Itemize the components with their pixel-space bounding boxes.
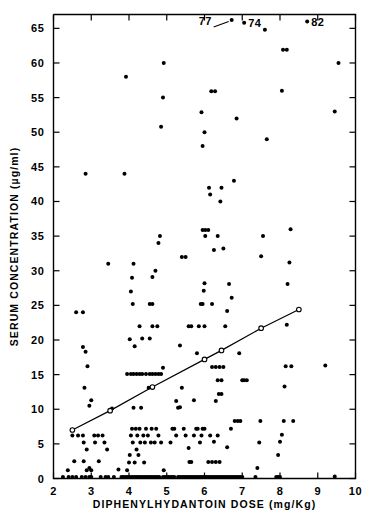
data-point (156, 241, 160, 245)
data-point (225, 309, 229, 313)
data-point (130, 427, 134, 431)
data-point (323, 364, 327, 368)
data-point (161, 366, 165, 370)
data-point (282, 419, 286, 423)
data-point (289, 364, 293, 368)
data-point (289, 227, 293, 231)
x-tick-label: 4 (126, 485, 133, 497)
data-point (278, 440, 282, 444)
data-point (182, 427, 186, 431)
data-point (70, 475, 74, 479)
data-point (214, 460, 218, 464)
data-point (74, 475, 78, 479)
x-tick-label: 6 (201, 485, 208, 497)
x-tick-label: 8 (277, 485, 284, 497)
data-point (116, 468, 120, 472)
data-point (203, 427, 207, 431)
data-point (203, 324, 207, 328)
data-point (263, 28, 267, 32)
data-point (150, 324, 154, 328)
annotation-label-74: 74 (248, 17, 262, 29)
data-point (112, 475, 116, 479)
data-point (210, 460, 214, 464)
data-point (144, 372, 148, 376)
data-point (99, 475, 103, 479)
data-point (230, 296, 234, 300)
data-point (153, 440, 157, 444)
data-point (208, 193, 212, 197)
data-point (206, 228, 210, 232)
data-point (265, 137, 269, 141)
data-point (223, 324, 227, 328)
data-point (89, 475, 93, 479)
data-point (149, 440, 153, 444)
data-point (129, 290, 133, 294)
data-point (232, 179, 236, 183)
data-point (169, 440, 173, 444)
data-point (258, 419, 262, 423)
data-point (97, 459, 101, 463)
data-point (178, 344, 182, 348)
data-point (189, 460, 193, 464)
data-point (157, 475, 161, 479)
data-point (96, 434, 100, 438)
data-point (261, 234, 265, 238)
data-point (333, 474, 337, 478)
data-point (180, 255, 184, 259)
data-point (84, 350, 88, 354)
x-tick-label: 5 (163, 485, 170, 497)
data-point (93, 440, 97, 444)
data-point (208, 434, 212, 438)
data-point (203, 281, 207, 285)
data-point (82, 440, 86, 444)
data-point (131, 440, 135, 444)
data-point (139, 406, 143, 410)
data-point (219, 392, 223, 396)
y-tick-label: 10 (31, 403, 44, 415)
y-axis-title: SERUM CONCENTRATION (µg/ml) (8, 147, 20, 346)
data-point (195, 351, 199, 355)
y-tick-label: 30 (31, 265, 44, 277)
data-point (89, 398, 93, 402)
data-point (216, 234, 220, 238)
data-point (227, 282, 231, 286)
data-point (158, 234, 162, 238)
data-point (203, 234, 207, 238)
data-point (174, 399, 178, 403)
data-point (201, 302, 205, 306)
data-point (218, 365, 222, 369)
y-tick-label: 40 (31, 195, 44, 207)
data-point (66, 468, 70, 472)
y-tick-label: 15 (31, 369, 44, 381)
data-point (225, 445, 229, 449)
data-point (132, 406, 136, 410)
data-point (212, 440, 216, 444)
annotated-data-point (242, 21, 246, 25)
x-tick-label: 7 (239, 485, 246, 497)
data-point (218, 460, 222, 464)
data-point (150, 302, 154, 306)
data-point (82, 459, 86, 463)
data-point (187, 446, 191, 450)
data-point (80, 475, 84, 479)
data-point (133, 344, 137, 348)
data-point (101, 434, 105, 438)
data-point (238, 419, 242, 423)
data-point (184, 434, 188, 438)
data-point (276, 453, 280, 457)
regression-node-marker (202, 357, 207, 362)
data-point (214, 365, 218, 369)
data-point (85, 364, 89, 368)
data-point (67, 475, 71, 479)
data-point (207, 186, 211, 190)
data-point (125, 372, 129, 376)
data-point (210, 302, 214, 306)
data-point (76, 434, 80, 438)
annotation-label-77: 77 (199, 15, 212, 27)
regression-node-marker (259, 326, 264, 331)
data-point (138, 427, 142, 431)
data-point (192, 434, 196, 438)
data-point (245, 378, 249, 382)
data-point (61, 475, 65, 479)
data-point (159, 440, 163, 444)
